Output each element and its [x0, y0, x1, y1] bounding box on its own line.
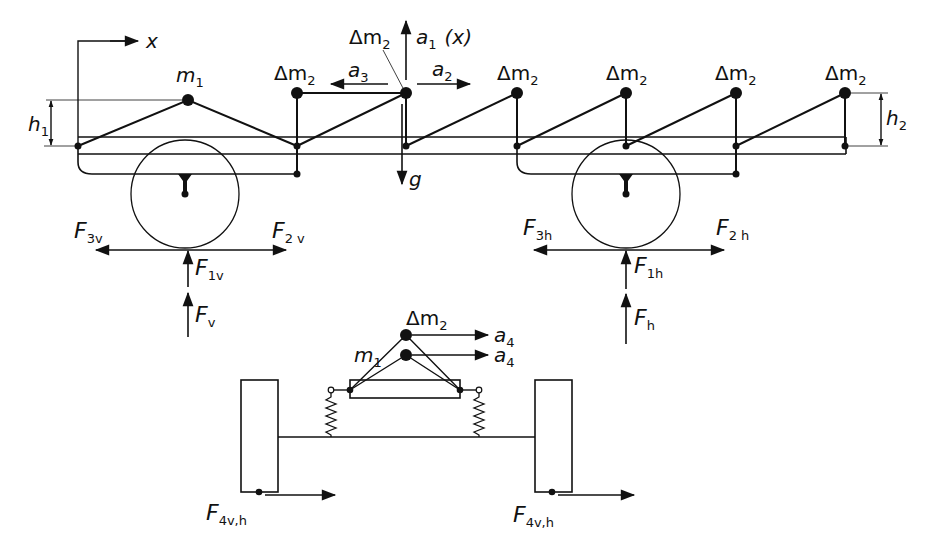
svg-text:h2: h2 [886, 106, 907, 133]
svg-text:Fh: Fh [634, 305, 655, 333]
svg-text:F2 v: F2 v [272, 218, 305, 246]
right-wheel [535, 380, 572, 492]
mass-dm2-4: Δm2 [606, 61, 647, 99]
svg-text:m1: m1 [354, 343, 382, 370]
svg-text:F4v,h: F4v,h [206, 500, 247, 528]
vehicle-frame [78, 137, 846, 174]
left-wheel [241, 380, 278, 492]
acceleration-a2-arrow: a2 [417, 57, 470, 84]
svg-text:Δm2: Δm2 [715, 61, 756, 88]
mass-dm2-3: Δm2 [497, 61, 538, 99]
rear-wheel-forces: F3h F2 h F1h Fh [523, 215, 749, 344]
force-F2v-label: F [272, 218, 285, 243]
force-F1h-label: F [634, 253, 647, 278]
svg-text:F1h: F1h [634, 253, 663, 281]
svg-text:Δm2: Δm2 [606, 61, 647, 88]
rear-view: Δm2 a4 m1 a4 F4v,h F4v,h [206, 306, 634, 530]
spring-right [460, 387, 484, 437]
mass-dm2-5: Δm2 [715, 61, 756, 99]
joint-dots [75, 143, 849, 178]
svg-text:Δm2: Δm2 [825, 61, 866, 88]
svg-text:a3: a3 [348, 58, 369, 85]
svg-text:Δm2: Δm2 [349, 25, 390, 52]
dimension-h2: h2 [846, 93, 907, 146]
force-Fv-label: F [195, 302, 208, 327]
side-view: x [28, 21, 907, 344]
svg-text:Fv: Fv [195, 302, 216, 330]
acceleration-a3-arrow: a3 [331, 58, 388, 85]
svg-text:Δm2: Δm2 [406, 306, 447, 333]
body-platform [350, 380, 460, 398]
svg-text:F2 h: F2 h [716, 215, 749, 243]
spring-left [326, 387, 350, 437]
svg-text:a2: a2 [432, 57, 453, 84]
svg-text:m1: m1 [176, 63, 204, 90]
force-F4-right: F4v,h [513, 489, 634, 530]
svg-text:Δm2: Δm2 [274, 61, 315, 88]
svg-text:Δm2: Δm2 [497, 61, 538, 88]
front-wheel-forces: F3v F2 v F1v Fv [74, 218, 305, 337]
vehicle-force-diagram: x [0, 0, 927, 548]
svg-text:a1(x): a1(x) [416, 25, 472, 52]
front-wheel [131, 140, 239, 248]
svg-text:g: g [409, 167, 422, 191]
svg-text:F1v: F1v [195, 255, 224, 283]
svg-text:F3h: F3h [523, 215, 552, 243]
rear-wheel [572, 140, 680, 248]
force-F1v-label: F [195, 255, 208, 280]
svg-text:h1: h1 [28, 112, 49, 139]
force-F3v-label: F [74, 218, 87, 243]
force-Fh-label: F [634, 305, 647, 330]
mass-linkages [78, 93, 845, 174]
dimension-h1: h1 [28, 100, 182, 146]
svg-text:F3v: F3v [74, 218, 103, 246]
force-F4-left: F4v,h [206, 489, 335, 528]
rear-mass-m1: m1 a4 [354, 343, 515, 370]
svg-text:F4v,h: F4v,h [513, 502, 554, 530]
force-F2h-label: F [716, 215, 729, 240]
force-F3h-label: F [523, 215, 536, 240]
x-axis-label: x [145, 29, 158, 53]
mass-m1: m1 [176, 63, 204, 106]
